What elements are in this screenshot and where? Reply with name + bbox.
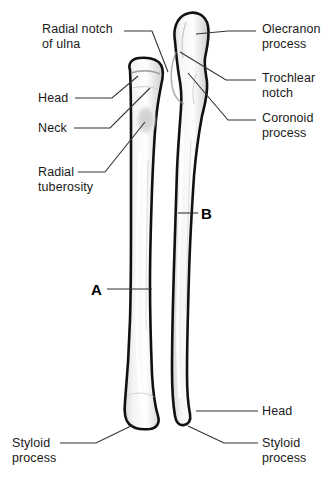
marker-b: B: [201, 205, 212, 222]
leader-styloid-right: [188, 426, 258, 443]
anatomy-figure: Radial notch of ulna Head Neck Radial tu…: [0, 0, 332, 487]
label-trochlear-notch: Trochlear notch: [262, 71, 315, 100]
label-radial-notch-of-ulna: Radial notch of ulna: [42, 22, 113, 51]
label-styloid-process-left: Styloid process: [12, 436, 56, 465]
leader-head-left: [75, 76, 138, 98]
label-styloid-process-right: Styloid process: [262, 436, 306, 465]
label-head-left: Head: [38, 91, 68, 106]
leader-styloid-left: [60, 425, 133, 443]
label-coronoid-process: Coronoid process: [262, 111, 314, 140]
marker-a: A: [91, 281, 102, 298]
radius-bone: [125, 58, 163, 429]
label-neck: Neck: [38, 121, 67, 136]
label-radial-tuberosity: Radial tuberosity: [38, 165, 93, 194]
label-head-right: Head: [262, 404, 292, 419]
label-olecranon-process: Olecranon process: [262, 22, 321, 51]
